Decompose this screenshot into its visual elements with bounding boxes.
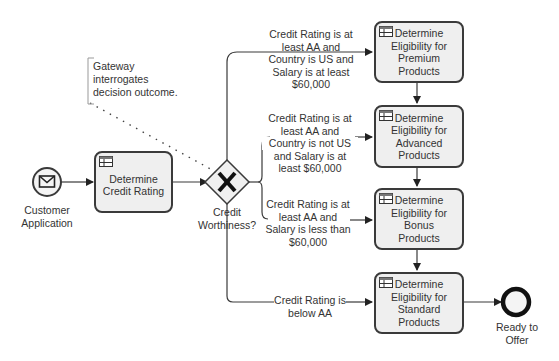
start-event[interactable] xyxy=(33,168,61,196)
label-line: $60,000 xyxy=(262,78,360,91)
exclusive-gateway[interactable] xyxy=(205,160,249,204)
task-label-line: Premium xyxy=(391,52,447,65)
label-line: Offer xyxy=(490,334,544,347)
decision-table-icon xyxy=(379,193,393,204)
task-label-line: Standard xyxy=(391,303,447,316)
label-line: Credit xyxy=(193,206,261,219)
task-label-line: Eligibility for xyxy=(391,40,447,53)
task-label-line: Determine xyxy=(391,112,447,125)
label-line: Salary is at least xyxy=(262,66,360,79)
label-line: least AA and xyxy=(262,125,358,138)
task-label-line: Determine xyxy=(391,278,447,291)
label-line: least AA and xyxy=(264,211,352,224)
label-line: below AA xyxy=(274,307,346,320)
end-event-label: Ready to Offer xyxy=(490,321,544,346)
task-eligibility-standard[interactable]: Determine Eligibility for Standard Produ… xyxy=(374,272,464,334)
text-annotation: Gateway interrogates decision outcome. xyxy=(93,60,178,99)
task-label-line: Advanced xyxy=(391,137,447,150)
task-eligibility-bonus[interactable]: Determine Eligibility for Bonus Products xyxy=(374,188,464,250)
label-line: $60,000 xyxy=(264,236,352,249)
end-event[interactable] xyxy=(503,289,529,315)
task-label-line: Products xyxy=(391,65,447,78)
task-label-line: Products xyxy=(391,316,447,329)
task-label-line: Bonus xyxy=(391,219,447,232)
decision-table-icon xyxy=(99,156,113,167)
label-line: Worthiness? xyxy=(193,219,261,232)
label-line: Credit Rating is at xyxy=(262,112,358,125)
label-line: Credit Rating is at xyxy=(262,28,360,41)
label-line: Credit Rating is xyxy=(274,294,346,307)
task-label-line: Products xyxy=(391,149,447,162)
task-label-line: Determine xyxy=(103,173,164,186)
flow-label-standard: Credit Rating is below AA xyxy=(274,294,346,319)
flow-label-bonus: Credit Rating is at least AA and Salary … xyxy=(264,198,352,248)
task-label-line: Determine xyxy=(391,194,447,207)
flow-label-advanced: Credit Rating is at least AA and Country… xyxy=(262,112,358,175)
label-line: Country is not US xyxy=(262,137,358,150)
label-line: Customer xyxy=(16,204,78,217)
task-eligibility-premium[interactable]: Determine Eligibility for Premium Produc… xyxy=(374,21,464,83)
task-label-line: Products xyxy=(391,232,447,245)
label-line: least $60,000 xyxy=(262,162,358,175)
label-line: and Salary is at xyxy=(262,150,358,163)
decision-table-icon xyxy=(379,277,393,288)
task-label-line: Credit Rating xyxy=(103,185,164,198)
annotation-line: interrogates xyxy=(93,73,178,86)
task-label-line: Determine xyxy=(391,27,447,40)
decision-table-icon xyxy=(379,26,393,37)
task-label-line: Eligibility for xyxy=(391,291,447,304)
task-eligibility-advanced[interactable]: Determine Eligibility for Advanced Produ… xyxy=(374,105,464,168)
flow-label-premium: Credit Rating is at least AA and Country… xyxy=(262,28,360,91)
task-determine-credit-rating[interactable]: Determine Credit Rating xyxy=(94,151,173,213)
label-line: Salary is less than xyxy=(264,223,352,236)
label-line: Application xyxy=(16,217,78,230)
annotation-line: Gateway xyxy=(93,60,178,73)
decision-table-icon xyxy=(379,110,393,121)
label-line: Credit Rating is at xyxy=(264,198,352,211)
label-line: Country is US and xyxy=(262,53,360,66)
annotation-line: decision outcome. xyxy=(93,86,178,99)
label-line: least AA and xyxy=(262,41,360,54)
task-label-line: Eligibility for xyxy=(391,124,447,137)
label-line: Ready to xyxy=(490,321,544,334)
task-label-line: Eligibility for xyxy=(391,207,447,220)
gateway-label: Credit Worthiness? xyxy=(193,206,261,231)
start-event-label: Customer Application xyxy=(16,204,78,229)
